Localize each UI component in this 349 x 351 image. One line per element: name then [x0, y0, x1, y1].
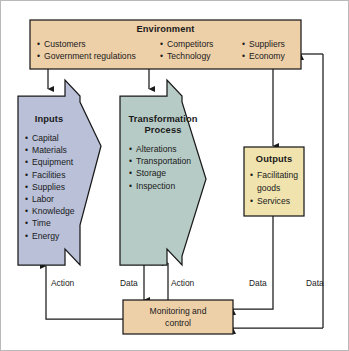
environment-item: Suppliers	[242, 38, 285, 50]
environment-item: Customers	[37, 38, 136, 50]
flow-label-data-environment: Data	[306, 278, 324, 288]
transformation-title-line1: Transformation	[122, 114, 204, 125]
outputs-item: Facilitating	[250, 169, 298, 181]
inputs-item: Supplies	[25, 181, 75, 193]
transformation-item: Alterations	[129, 143, 191, 155]
environment-item: Competitors	[160, 38, 213, 50]
outputs-title: Outputs	[244, 154, 304, 165]
transformation-item: Inspection	[129, 180, 191, 192]
monitoring-title-line1: Monitoring and	[123, 306, 233, 316]
transformation-item: Transportation	[129, 155, 191, 167]
environment-title: Environment	[30, 24, 301, 35]
flow-label-data-transformation: Data	[120, 278, 138, 288]
inputs-title: Inputs	[18, 114, 80, 125]
monitoring-title-line2: control	[123, 318, 233, 328]
line-data-outputs-to-monitoring	[233, 216, 273, 309]
inputs-list: Capital Materials Equipment Facilities S…	[25, 132, 75, 242]
flow-label-action-inputs: Action	[51, 278, 74, 288]
environment-item: Technology	[160, 50, 213, 62]
environment-column-1: Customers Government regulations	[37, 38, 136, 62]
inputs-item: Time	[25, 217, 75, 229]
environment-column-2: Competitors Technology	[160, 38, 213, 62]
inputs-item: Energy	[25, 230, 75, 242]
inputs-item: Materials	[25, 144, 75, 156]
outputs-item: Services	[250, 195, 290, 207]
environment-item: Economy	[242, 50, 285, 62]
transformation-item: Storage	[129, 167, 191, 179]
transformation-list: Alterations Transportation Storage Inspe…	[129, 143, 191, 192]
outputs-list-2: Services	[250, 195, 290, 207]
flow-label-data-outputs: Data	[249, 278, 267, 288]
inputs-item: Knowledge	[25, 205, 75, 217]
environment-item: Government regulations	[37, 50, 136, 62]
flow-label-action-transformation: Action	[171, 278, 194, 288]
inputs-item: Facilities	[25, 169, 75, 181]
outputs-list: Facilitating	[250, 169, 298, 181]
environment-column-3: Suppliers Economy	[242, 38, 285, 62]
inputs-item: Capital	[25, 132, 75, 144]
inputs-item: Equipment	[25, 156, 75, 168]
transformation-title-line2: Process	[122, 125, 204, 136]
line-action-to-inputs	[46, 266, 123, 319]
inputs-item: Labor	[25, 193, 75, 205]
system-model-diagram: Environment Customers Government regulat…	[0, 0, 349, 351]
outputs-item-continuation: goods	[257, 183, 280, 193]
